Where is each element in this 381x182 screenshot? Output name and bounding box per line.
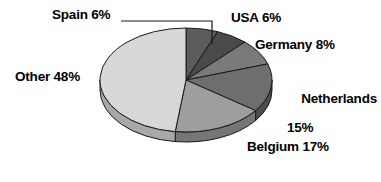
slice-label-germany: Germany 8% — [255, 38, 335, 53]
slice-label-usa: USA 6% — [231, 11, 281, 26]
pie-chart: Spain 6% USA 6% Germany 8% Netherlands 1… — [0, 0, 381, 182]
slice-label-belgium: Belgium 17% — [247, 140, 329, 155]
slice-label-netherlands-percent: 15% — [287, 121, 377, 136]
slice-label-netherlands-name: Netherlands — [301, 91, 377, 106]
pie-top-faces — [100, 28, 272, 132]
slice-label-spain: Spain 6% — [52, 8, 110, 23]
slice-label-other: Other 48% — [15, 70, 80, 85]
